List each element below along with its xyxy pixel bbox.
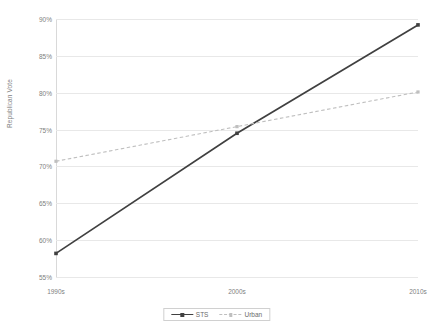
y-axis-tick-label: 80%: [12, 89, 52, 96]
legend-label-sts: STS: [196, 311, 209, 318]
legend-label-urban: Urban: [244, 311, 262, 318]
legend-line-icon-sts: [171, 311, 193, 318]
legend-item-sts[interactable]: STS: [171, 311, 209, 318]
x-axis-tick-label: 2000s: [228, 288, 246, 295]
line-chart: Republican Vote 55%60%65%70%75%80%85%90%…: [0, 0, 433, 335]
x-axis-tick-label: 1990s: [47, 288, 65, 295]
y-axis-tick-label: 60%: [12, 237, 52, 244]
y-axis-tick-label: 75%: [12, 126, 52, 133]
legend-line-icon-urban: [219, 311, 241, 318]
series-layer: [56, 19, 418, 277]
data-point-marker-sts[interactable]: [54, 252, 58, 256]
legend: STS Urban: [163, 308, 270, 321]
y-axis-tick-label: 65%: [12, 200, 52, 207]
y-axis-tick-label: 70%: [12, 163, 52, 170]
y-axis-title: Republican Vote: [6, 79, 13, 128]
y-axis-tick-label: 90%: [12, 16, 52, 23]
gridline: [56, 277, 418, 278]
y-axis-tick-label: 55%: [12, 274, 52, 281]
data-point-marker-urban[interactable]: [235, 125, 238, 128]
y-axis-tick-label: 85%: [12, 52, 52, 59]
plot-area: [56, 19, 418, 277]
legend-item-urban[interactable]: Urban: [219, 311, 262, 318]
x-axis-tick-label: 2010s: [409, 288, 427, 295]
data-point-marker-urban[interactable]: [54, 160, 57, 163]
series-line-sts: [56, 25, 418, 254]
data-point-marker-sts[interactable]: [235, 131, 239, 135]
data-point-marker-sts[interactable]: [416, 23, 420, 27]
data-point-marker-urban[interactable]: [416, 90, 419, 93]
